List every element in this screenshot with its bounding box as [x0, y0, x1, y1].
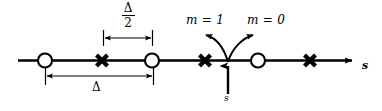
- label-full-delta: Δ: [92, 81, 101, 93]
- marker-circle-5: [251, 54, 265, 68]
- branch-arrows: [206, 35, 253, 62]
- marker-circle-1: [38, 54, 52, 68]
- pointer-label-s: s: [224, 94, 229, 103]
- dimension-half-delta: [104, 30, 153, 46]
- label-branch-m1: m = 1: [186, 14, 224, 26]
- marker-circle-3: [145, 54, 159, 68]
- branch-arrow-m0: [228, 35, 253, 62]
- label-half-delta: Δ 2: [114, 2, 142, 29]
- half-delta-numerator: Δ: [114, 2, 142, 14]
- label-branch-m0: m = 0: [247, 14, 285, 26]
- axis-label-s: s: [362, 60, 368, 71]
- half-delta-denominator: 2: [114, 17, 142, 29]
- number-line-diagram: Δ 2 Δ m = 1 m = 0 s s: [0, 0, 382, 111]
